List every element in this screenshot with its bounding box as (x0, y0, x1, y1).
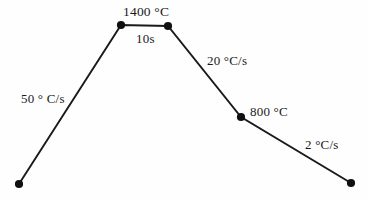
peak-temperature-label: 1400 °C (123, 5, 169, 19)
temperature-profile-line (19, 25, 351, 184)
marker-mid-cool (237, 113, 245, 121)
cooling-rate-slow-label: 2 °C/s (305, 138, 339, 151)
hold-time-label: 10s (136, 32, 155, 45)
mid-temperature-label: 800 °C (250, 105, 288, 118)
cooling-rate-fast-label: 20 °C/s (207, 54, 247, 67)
marker-peak-end (164, 22, 172, 30)
heating-rate-label: 50 ° C/s (21, 92, 65, 105)
marker-end (347, 179, 355, 187)
profile-polyline-group (19, 25, 351, 184)
thermal-profile-figure: 1400 °C 10s 50 ° C/s 20 °C/s 800 °C 2 °C… (0, 0, 369, 200)
marker-peak-start (117, 21, 125, 29)
marker-start (15, 180, 23, 188)
